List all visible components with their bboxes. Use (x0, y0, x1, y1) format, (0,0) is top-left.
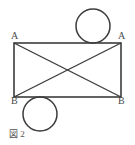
vertex-label-bottom-left: B (11, 96, 18, 106)
figure-container: A A B B 図 2 (0, 0, 135, 145)
vertex-label-top-left: A (11, 31, 18, 41)
circle-top (76, 9, 110, 43)
circle-bottom (23, 97, 57, 131)
vertex-label-bottom-right: B (118, 96, 125, 106)
geometry-diagram (0, 0, 135, 145)
figure-caption: 図 2 (9, 129, 25, 140)
vertex-label-top-right: A (118, 31, 125, 41)
